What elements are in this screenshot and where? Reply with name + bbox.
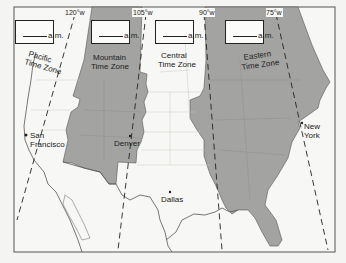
meridian-105-label: 105°w [133,9,153,16]
central-label-line2: Time Zone [158,60,196,69]
new-york-dot [301,122,303,124]
pacific-time-answer-box[interactable]: a.m. [15,20,54,44]
mountain-am-suffix: a.m. [124,31,140,40]
dallas-dot [169,191,171,193]
mountain-time-answer-box[interactable]: a.m. [91,20,130,44]
new-york-label-line2: York [304,131,321,140]
pacific-time-blank[interactable] [23,36,47,37]
mountain-label-line1: Mountain [93,53,126,62]
central-time-blank[interactable] [163,36,187,37]
meridian-75-label: 75°w [266,9,283,16]
meridian-120-label: 120°w [65,9,85,16]
dallas-label: Dallas [161,195,183,204]
san-francisco-label-line2: Francisco [30,140,65,149]
central-am-suffix: a.m. [188,31,204,40]
eastern-time-blank[interactable] [233,36,257,37]
central-label-line1: Central [161,51,187,60]
denver-label: Denver [114,139,140,148]
central-time-answer-box[interactable]: a.m. [155,20,194,44]
mountain-time-blank[interactable] [99,36,123,37]
denver-dot [129,135,131,137]
eastern-time-answer-box[interactable]: a.m. [225,20,264,44]
meridian-90-label: 90°w [199,9,216,16]
san-francisco-label-line1: San [30,131,44,140]
mountain-label-line2: Time Zone [91,62,129,71]
eastern-am-suffix: a.m. [258,31,274,40]
san-francisco-dot [25,134,28,137]
new-york-label-line1: New [304,122,320,131]
pacific-am-suffix: a.m. [48,31,64,40]
